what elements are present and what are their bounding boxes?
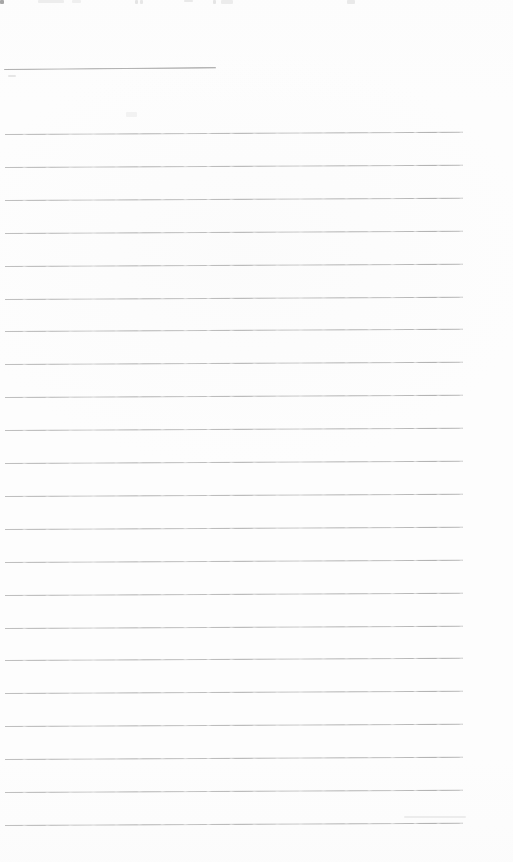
ruled-line-11	[5, 461, 463, 464]
ruled-line-13	[5, 527, 463, 530]
ruled-line-6	[5, 296, 463, 299]
ruled-line-14	[5, 559, 463, 562]
ruled-line-5	[5, 263, 463, 266]
ruled-line-4	[5, 230, 463, 233]
ruled-line-1	[5, 132, 463, 135]
scan-artifact-5	[140, 0, 143, 4]
ruled-line-21	[5, 790, 463, 793]
scan-artifact-11	[126, 112, 137, 117]
scan-artifact-10	[8, 75, 16, 77]
ruled-line-8	[5, 362, 463, 365]
scan-artifact-6	[184, 0, 193, 2]
ruled-line-15	[5, 592, 463, 595]
ruled-line-7	[5, 329, 463, 332]
ruled-line-10	[5, 428, 463, 431]
scan-artifact-7	[213, 0, 216, 4]
ruled-line-9	[5, 395, 463, 398]
ruled-line-22	[5, 823, 463, 826]
scan-artifact-3	[72, 0, 81, 3]
ruled-line-2	[5, 165, 463, 168]
ruled-line-16	[5, 625, 463, 628]
paper-texture	[0, 0, 513, 862]
scan-artifact-2	[38, 0, 64, 3]
ruled-line-12	[5, 494, 463, 497]
scan-artifact-8	[221, 0, 233, 4]
scanned-notebook-page	[0, 0, 513, 862]
ruled-line-18	[5, 691, 463, 694]
ruled-line-20	[5, 757, 463, 760]
ruled-line-17	[5, 658, 463, 661]
scan-artifact-1	[0, 0, 4, 4]
ruled-line-19	[5, 724, 463, 727]
scan-artifact-4	[135, 0, 138, 4]
ruled-line-3	[5, 198, 463, 201]
name-line	[4, 67, 216, 70]
scan-artifact-12	[404, 816, 466, 818]
scan-artifact-9	[347, 0, 355, 4]
